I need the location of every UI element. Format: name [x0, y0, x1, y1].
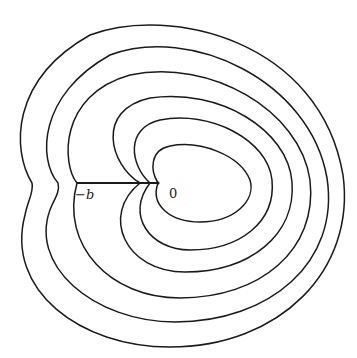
level-curve-1: [153, 145, 251, 222]
level-curves-diagram: −b 0: [0, 0, 357, 358]
level-curve-3: [113, 97, 292, 272]
level-curve-4: [68, 72, 311, 298]
label-minus-b: −b: [75, 187, 94, 202]
level-curve-5: [46, 47, 328, 322]
label-origin: 0: [169, 186, 177, 201]
